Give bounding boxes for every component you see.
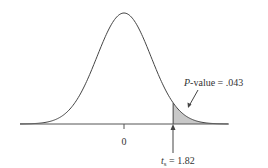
test-statistic-label: ts = 1.82 <box>161 155 195 168</box>
p-value-label: P-value = .043 <box>183 77 243 88</box>
p-value-text: -value = .043 <box>190 77 243 88</box>
density-curve <box>20 13 228 124</box>
stat-value: = 1.82 <box>167 155 195 166</box>
test-stat-arrow-head <box>171 124 176 130</box>
p-value-shaded-region <box>173 103 228 124</box>
p-value-pointer-line <box>189 90 198 106</box>
tick-label-zero: 0 <box>122 136 127 147</box>
p-italic: P <box>183 77 190 88</box>
t-distribution-chart: 0 ts = 1.82 P-value = .043 <box>0 0 268 168</box>
